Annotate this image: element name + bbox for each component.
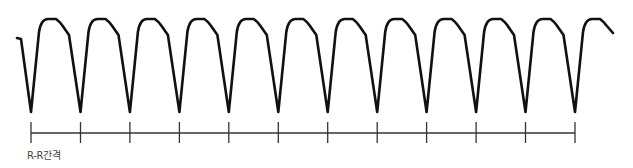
rr-interval-label: R-R간격	[27, 147, 61, 162]
waveform-line	[17, 19, 613, 112]
rr-interval-axis	[31, 122, 575, 143]
ecg-waveform	[0, 0, 633, 168]
